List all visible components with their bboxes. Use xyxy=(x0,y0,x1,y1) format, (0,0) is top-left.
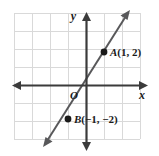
point-a-dot xyxy=(101,49,108,56)
point-a-label: A(1, 2) xyxy=(109,46,142,59)
coordinate-plane-figure: y x O A(1, 2) B(−1, −2) xyxy=(0,0,159,156)
y-axis-label: y xyxy=(69,9,77,23)
origin-label: O xyxy=(70,89,78,101)
point-b-label: B(−1, −2) xyxy=(73,113,118,126)
x-axis-label: x xyxy=(138,88,145,102)
point-b-label-coords: (−1, −2) xyxy=(81,113,118,126)
point-a-label-letter: A xyxy=(109,46,117,58)
figure-background xyxy=(0,0,159,156)
point-a-label-coords: (1, 2) xyxy=(117,46,141,59)
coordinate-plane-svg: y x O A(1, 2) B(−1, −2) xyxy=(0,0,159,156)
point-b-label-letter: B xyxy=(73,113,81,125)
point-b-dot xyxy=(65,116,72,123)
